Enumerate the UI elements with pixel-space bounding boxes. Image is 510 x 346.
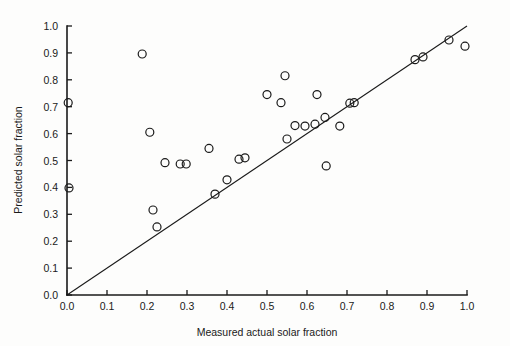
y-tick-label: 0.9 <box>43 47 58 59</box>
one-to-one-line <box>67 26 467 295</box>
data-point <box>146 128 154 136</box>
data-point <box>263 91 271 99</box>
y-tick-label: 0.8 <box>43 74 58 86</box>
data-point <box>322 162 330 170</box>
data-point <box>161 159 169 167</box>
scatter-plot-figure: 0.00.10.20.30.40.50.60.70.80.91.0 0.00.1… <box>0 0 510 346</box>
data-point <box>64 99 72 107</box>
data-point <box>301 122 309 130</box>
y-tick-label: 1.0 <box>43 20 58 32</box>
x-tick-label: 0.1 <box>100 300 115 312</box>
y-tick-label: 0.0 <box>43 289 58 301</box>
data-point <box>461 42 469 50</box>
y-tick-label: 0.4 <box>43 181 58 193</box>
x-tick-label: 0.8 <box>380 300 395 312</box>
x-tick-label: 0.7 <box>340 300 355 312</box>
x-tick-group: 0.00.10.20.30.40.50.60.70.80.91.0 <box>60 290 475 312</box>
x-tick-label: 0.0 <box>60 300 75 312</box>
one-to-one-line <box>67 26 467 295</box>
data-point <box>283 135 291 143</box>
plot-canvas: 0.00.10.20.30.40.50.60.70.80.91.0 0.00.1… <box>0 0 510 346</box>
data-point <box>277 99 285 107</box>
y-tick-label: 0.3 <box>43 208 58 220</box>
data-point <box>321 113 329 121</box>
x-tick-label: 1.0 <box>460 300 475 312</box>
x-axis-title: Measured actual solar fraction <box>197 326 338 338</box>
data-point <box>182 160 190 168</box>
x-tick-label: 0.4 <box>220 300 235 312</box>
data-point <box>281 72 289 80</box>
data-point <box>223 176 231 184</box>
y-axis-title: Predicted solar fraction <box>12 106 24 214</box>
data-point <box>313 91 321 99</box>
y-tick-label: 0.6 <box>43 128 58 140</box>
x-tick-label: 0.5 <box>260 300 275 312</box>
data-point <box>291 122 299 130</box>
data-point <box>205 144 213 152</box>
x-tick-label: 0.3 <box>180 300 195 312</box>
data-point <box>336 122 344 130</box>
data-point <box>311 120 319 128</box>
y-tick-label: 0.7 <box>43 101 58 113</box>
data-point <box>138 50 146 58</box>
x-tick-label: 0.9 <box>420 300 435 312</box>
data-point <box>149 206 157 214</box>
x-tick-label: 0.2 <box>140 300 155 312</box>
x-tick-label: 0.6 <box>300 300 315 312</box>
y-tick-label: 0.5 <box>43 155 58 167</box>
data-point <box>153 223 161 231</box>
y-tick-label: 0.1 <box>43 262 58 274</box>
y-tick-label: 0.2 <box>43 235 58 247</box>
